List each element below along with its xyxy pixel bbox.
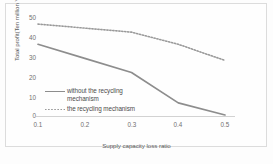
y-tick-50: 50: [14, 14, 36, 21]
x-axis-title: Supply capacity loss ratio: [0, 142, 273, 149]
y-tick-10: 10: [14, 94, 36, 101]
chart-figure: Total profit(Ten million Yuan) 50 40 30 …: [0, 0, 273, 164]
series-recycling-line: [38, 24, 225, 60]
legend-label-recycling: the recycling mechanism: [67, 105, 135, 113]
y-tick-0: 0: [14, 112, 36, 119]
legend-label-line2: mechanism: [67, 95, 123, 103]
x-tick-0.4: 0.4: [163, 121, 193, 128]
x-tick-0.1: 0.1: [23, 121, 53, 128]
legend-item-recycling: the recycling mechanism: [45, 105, 135, 113]
x-tick-0.5: 0.5: [210, 121, 240, 128]
x-axis-line: [36, 116, 235, 117]
legend-label-without-recycling: without the recycling mechanism: [67, 87, 123, 104]
x-tick-0.2: 0.2: [70, 121, 100, 128]
y-tick-20: 20: [14, 74, 36, 81]
chart-legend: without the recycling mechanism the recy…: [45, 87, 135, 114]
y-tick-40: 40: [14, 34, 36, 41]
x-tick-0.3: 0.3: [117, 121, 147, 128]
dotted-line-marker-icon: [45, 105, 67, 113]
legend-item-without-recycling: without the recycling mechanism: [45, 87, 135, 104]
y-tick-30: 30: [14, 54, 36, 61]
legend-label-line1: without the recycling: [67, 87, 123, 94]
solid-line-marker-icon: [45, 87, 67, 95]
